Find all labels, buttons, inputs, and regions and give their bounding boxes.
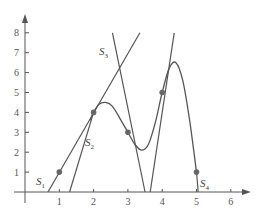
axes <box>14 14 251 203</box>
label-s1: S1 <box>36 175 46 190</box>
x-tick-label: 6 <box>228 196 233 207</box>
data-points <box>57 90 200 175</box>
y-tick-label: 1 <box>14 167 19 178</box>
y-tick-label: 5 <box>14 87 19 98</box>
y-tick-label: 8 <box>14 27 19 38</box>
chart: 12345612345678 S1 S2 S3 S4 <box>0 0 259 220</box>
label-s4: S4 <box>200 177 210 192</box>
x-tick-label: 2 <box>91 196 96 207</box>
tangent-line <box>150 33 174 192</box>
data-point <box>194 169 200 175</box>
y-axis-arrow-icon <box>22 14 28 23</box>
secant-line-s3 <box>112 33 145 192</box>
label-s2: S2 <box>85 136 95 151</box>
data-point <box>125 130 131 136</box>
y-tick-label: 6 <box>14 67 19 78</box>
y-tick-label: 4 <box>14 107 19 118</box>
label-s3: S3 <box>99 45 109 60</box>
x-tick-label: 5 <box>194 196 199 207</box>
data-point <box>91 110 97 116</box>
y-tick-label: 7 <box>14 47 19 58</box>
x-tick-label: 1 <box>57 196 62 207</box>
secant-line-s2 <box>70 112 94 192</box>
data-point <box>159 90 165 96</box>
y-tick-label: 2 <box>14 147 19 158</box>
data-point <box>57 169 63 175</box>
x-axis-arrow-icon <box>242 189 251 195</box>
secant-lines <box>48 33 198 192</box>
x-tick-label: 3 <box>125 196 130 207</box>
x-tick-label: 4 <box>160 196 165 207</box>
y-tick-label: 3 <box>14 127 19 138</box>
curve <box>90 62 196 172</box>
